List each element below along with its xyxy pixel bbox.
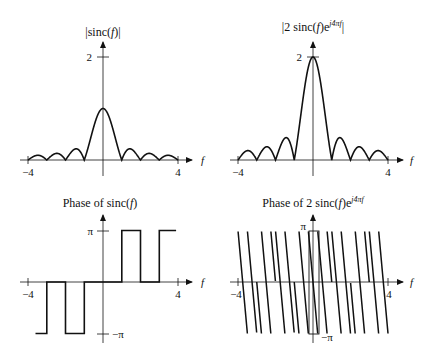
title-mag-shift: |2 sinc(f)ej4πf| — [282, 19, 344, 34]
curve-phase-sinc — [36, 231, 177, 334]
xtick-min: −4 — [22, 166, 34, 178]
figure: |sinc(f)| 2 −4 4 f |2 sinc(f)ej4πf| 2 −4… — [0, 0, 441, 357]
title-phase-sinc: Phase of sinc(f) — [63, 196, 138, 210]
panel-phase-shift: Phase of 2 sinc(f)ej4πf π −π −4 4 f — [230, 195, 415, 343]
xtick-min: −4 — [230, 288, 242, 300]
xtick-min: −4 — [232, 166, 244, 178]
xtick-max: 4 — [175, 166, 181, 178]
x-label: f — [201, 154, 206, 166]
ytick-neg-pi: −π — [112, 328, 124, 340]
x-label: f — [201, 276, 206, 288]
panel-mag-sinc: |sinc(f)| 2 −4 4 f — [20, 25, 206, 178]
title-mag-sinc: |sinc(f)| — [85, 25, 120, 39]
xtick-max: 4 — [386, 288, 392, 300]
x-label: f — [410, 276, 415, 288]
xtick-max: 4 — [385, 166, 391, 178]
ytick-pi: π — [300, 220, 306, 232]
ytick-2: 2 — [297, 51, 303, 63]
ytick-2: 2 — [87, 51, 93, 63]
panel-mag-shift: |2 sinc(f)ej4πf| 2 −4 4 f — [230, 19, 415, 178]
xtick-min: −4 — [22, 288, 34, 300]
title-phase-shift: Phase of 2 sinc(f)ej4πf — [262, 195, 365, 210]
ytick-pi: π — [87, 225, 93, 237]
xtick-max: 4 — [175, 288, 181, 300]
ytick-neg-pi: −π — [321, 331, 333, 343]
panel-phase-sinc: Phase of sinc(f) π −π −4 4 f — [20, 196, 206, 343]
x-label: f — [410, 154, 415, 166]
